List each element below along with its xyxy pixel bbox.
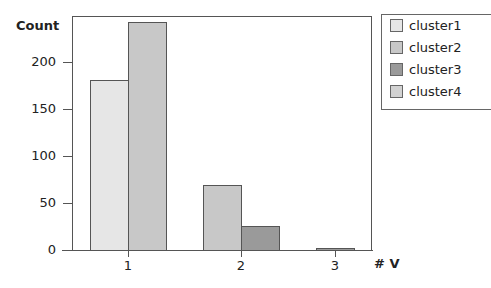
legend-swatch	[390, 85, 403, 98]
legend-item: cluster3	[390, 61, 461, 79]
y-tick-mark	[63, 250, 72, 251]
bar-cluster2-cat1	[128, 22, 167, 251]
legend-swatch	[390, 63, 403, 76]
y-tick-mark	[63, 62, 72, 63]
x-tick-mark	[241, 250, 242, 257]
y-tick-label: 150	[6, 101, 56, 116]
x-tick-mark	[335, 250, 336, 257]
y-tick-mark	[63, 109, 72, 110]
y-axis-label: Count	[16, 18, 59, 33]
y-tick-label: 100	[6, 148, 56, 163]
legend-item: cluster1	[390, 17, 461, 35]
y-tick-mark	[63, 156, 72, 157]
legend-swatch	[390, 41, 403, 54]
legend-swatch	[390, 19, 403, 32]
y-tick-label: 0	[6, 242, 56, 257]
legend: cluster1 cluster2 cluster3 cluster4	[381, 14, 491, 110]
y-tick-label: 50	[6, 195, 56, 210]
x-tick-label: 1	[118, 258, 138, 273]
x-axis-label: # V	[374, 256, 399, 271]
bar-cluster1-cat1	[90, 80, 129, 251]
legend-item: cluster4	[390, 83, 461, 101]
y-tick-mark	[63, 203, 72, 204]
bar-cluster3-cat2	[241, 226, 280, 251]
bar-cluster2-cat2	[203, 185, 242, 251]
y-tick-label: 200	[6, 54, 56, 69]
x-tick-label: 3	[325, 258, 345, 273]
x-tick-mark	[128, 250, 129, 257]
legend-item: cluster2	[390, 39, 461, 57]
x-tick-label: 2	[231, 258, 251, 273]
